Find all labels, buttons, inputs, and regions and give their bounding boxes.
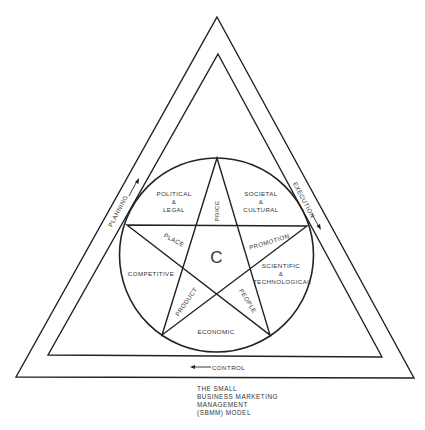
execution-arrowhead-icon: [317, 224, 322, 230]
segment-political-legal: POLITICAL & LEGAL: [156, 190, 191, 213]
mix-promotion: PROMOTION: [248, 232, 290, 251]
center-customer-label: C: [210, 248, 222, 267]
control-label: CONTROL: [212, 364, 245, 371]
segment-societal-cultural: SOCIETAL & CULTURAL: [243, 190, 279, 213]
svg-text:ECONOMIC: ECONOMIC: [197, 328, 234, 335]
diagram-caption: THE SMALL BUSINESS MARKETING MANAGEMENT …: [197, 385, 278, 417]
mix-people: PEOPLE: [238, 287, 258, 314]
control-arrowhead-icon: [190, 365, 195, 369]
svg-text:THE SMALL: THE SMALL: [197, 385, 237, 392]
svg-text:&: &: [172, 198, 177, 205]
svg-text:MANAGEMENT: MANAGEMENT: [197, 401, 248, 408]
segment-economic: ECONOMIC: [197, 328, 234, 335]
svg-text:POLITICAL: POLITICAL: [156, 190, 191, 197]
svg-text:(SBMM) MODEL: (SBMM) MODEL: [197, 409, 251, 417]
svg-text:&: &: [259, 198, 264, 205]
svg-text:&: &: [279, 270, 284, 277]
outer-triangle: [16, 17, 414, 378]
sbmm-model-diagram: POLITICAL & LEGAL SOCIETAL & CULTURAL CO…: [0, 0, 425, 430]
svg-text:BUSINESS MARKETING: BUSINESS MARKETING: [197, 393, 278, 400]
marketing-mix-star: [127, 158, 307, 335]
svg-text:SOCIETAL: SOCIETAL: [244, 190, 278, 197]
execution-flow: EXECUTION: [292, 181, 321, 230]
segment-scientific-technological: SCIENTIFIC & TECHNOLOGICAL: [253, 262, 311, 285]
mix-price: PRICE: [213, 201, 220, 222]
svg-text:TECHNOLOGICAL: TECHNOLOGICAL: [253, 278, 311, 285]
mix-product: PRODUCT: [174, 286, 199, 317]
svg-text:COMPETITIVE: COMPETITIVE: [128, 270, 174, 277]
planning-arrow-icon: [129, 181, 137, 196]
segment-competitive: COMPETITIVE: [128, 270, 174, 277]
svg-text:SCIENTIFIC: SCIENTIFIC: [262, 262, 301, 269]
mix-place: PLACE: [163, 231, 186, 248]
control-flow: CONTROL: [190, 364, 245, 371]
svg-text:CULTURAL: CULTURAL: [243, 206, 279, 213]
svg-text:LEGAL: LEGAL: [163, 206, 185, 213]
